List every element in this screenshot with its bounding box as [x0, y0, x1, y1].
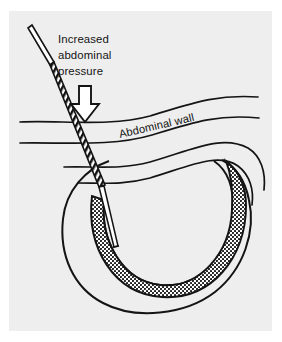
- pressure-label-line-1: Increased: [58, 33, 109, 45]
- needle-hub-shaft: [28, 25, 54, 65]
- diagram-canvas: Increased abdominal pressure Abdominal w…: [0, 0, 282, 342]
- graduated-shaft-icon: [50, 62, 105, 187]
- abdominal-wall-group: [20, 96, 264, 205]
- pressure-label-line-2: abdominal: [58, 49, 111, 61]
- pressure-label-line-3: pressure: [58, 65, 103, 77]
- needle-tip-end: [113, 246, 119, 247]
- figure-root: Increased abdominal pressure Abdominal w…: [0, 0, 282, 342]
